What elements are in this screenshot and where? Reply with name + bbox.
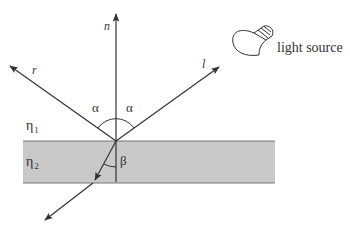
alpha-left-label: α xyxy=(92,100,99,115)
reflected-label: r xyxy=(32,63,37,77)
light-bulb-icon xyxy=(233,26,273,56)
eta1-label: η1 xyxy=(26,118,39,135)
light-vector-label: l xyxy=(202,57,206,71)
medium2-slab xyxy=(23,141,275,183)
reflection-refraction-diagram: n r l α α β η1 η2 light source xyxy=(0,0,350,228)
beta-label: β xyxy=(120,153,127,168)
transmitted-ray xyxy=(45,183,93,220)
normal-label: n xyxy=(104,19,110,33)
light-source-label: light source xyxy=(277,40,343,55)
alpha-right-label: α xyxy=(126,100,133,115)
